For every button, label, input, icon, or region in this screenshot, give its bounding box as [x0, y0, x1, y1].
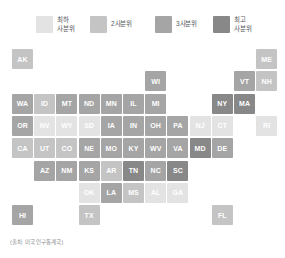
- source-note: (출처: 미국 인구통계국): [10, 238, 63, 246]
- state-tile-va[interactable]: VA: [167, 138, 188, 158]
- state-tile-il[interactable]: IL: [123, 94, 144, 114]
- state-tile-wy[interactable]: WY: [56, 116, 77, 136]
- state-tile-id[interactable]: ID: [34, 94, 55, 114]
- legend-item-1: 최하 사분위: [36, 16, 75, 33]
- state-tile-wa[interactable]: WA: [12, 94, 33, 114]
- state-tile-mt[interactable]: MT: [56, 94, 77, 114]
- legend-item-4: 최고 사분위: [213, 16, 252, 33]
- state-tile-ma[interactable]: MA: [234, 94, 255, 114]
- legend-swatch-q1: [36, 16, 53, 33]
- state-tile-ne[interactable]: NE: [79, 138, 100, 158]
- state-tile-nc[interactable]: NC: [145, 161, 166, 181]
- legend-label-q3: 3사분위: [176, 20, 197, 28]
- legend-item-2: 2사분위: [90, 16, 132, 33]
- state-tile-mn[interactable]: MN: [101, 94, 122, 114]
- state-tile-ct[interactable]: CT: [212, 116, 233, 136]
- state-tile-ok[interactable]: OK: [79, 183, 100, 203]
- state-tile-de[interactable]: DE: [212, 138, 233, 158]
- state-tile-md[interactable]: MD: [190, 138, 211, 158]
- state-tile-fl[interactable]: FL: [212, 205, 233, 225]
- legend-label-q1: 최하 사분위: [57, 16, 75, 32]
- state-tile-ar[interactable]: AR: [101, 161, 122, 181]
- state-tile-ks[interactable]: KS: [79, 161, 100, 181]
- quartile-legend: 최하 사분위2사분위3사분위최고 사분위: [0, 8, 285, 42]
- state-tile-la[interactable]: LA: [101, 183, 122, 203]
- state-tile-tn[interactable]: TN: [123, 161, 144, 181]
- state-tile-tx[interactable]: TX: [79, 205, 100, 225]
- legend-swatch-q3: [155, 16, 172, 33]
- state-tile-oh[interactable]: OH: [145, 116, 166, 136]
- legend-swatch-q4: [213, 16, 230, 33]
- state-tile-mo[interactable]: MO: [101, 138, 122, 158]
- state-tile-ky[interactable]: KY: [123, 138, 144, 158]
- state-tile-me[interactable]: ME: [256, 49, 277, 69]
- legend-item-3: 3사분위: [155, 16, 197, 33]
- state-tile-ca[interactable]: CA: [12, 138, 33, 158]
- state-tile-ia[interactable]: IA: [101, 116, 122, 136]
- state-tile-wi[interactable]: WI: [145, 71, 166, 91]
- state-tile-ri[interactable]: RI: [256, 116, 277, 136]
- state-tile-sc[interactable]: SC: [167, 161, 188, 181]
- state-tile-nd[interactable]: ND: [79, 94, 100, 114]
- state-tile-ms[interactable]: MS: [123, 183, 144, 203]
- legend-label-q4: 최고 사분위: [234, 16, 252, 32]
- state-tile-wv[interactable]: WV: [145, 138, 166, 158]
- state-tile-ga[interactable]: GA: [167, 183, 188, 203]
- state-tile-hi[interactable]: HI: [12, 205, 33, 225]
- state-tile-ny[interactable]: NY: [212, 94, 233, 114]
- state-tile-ut[interactable]: UT: [34, 138, 55, 158]
- state-tile-or[interactable]: OR: [12, 116, 33, 136]
- state-tile-nm[interactable]: NM: [56, 161, 77, 181]
- state-tile-az[interactable]: AZ: [34, 161, 55, 181]
- state-tile-nj[interactable]: NJ: [190, 116, 211, 136]
- state-tile-in[interactable]: IN: [123, 116, 144, 136]
- state-tile-co[interactable]: CO: [56, 138, 77, 158]
- state-tile-nv[interactable]: NV: [34, 116, 55, 136]
- state-tile-nh[interactable]: NH: [256, 71, 277, 91]
- state-tile-mi[interactable]: MI: [145, 94, 166, 114]
- state-tile-pa[interactable]: PA: [167, 116, 188, 136]
- legend-label-q2: 2사분위: [111, 20, 132, 28]
- legend-swatch-q2: [90, 16, 107, 33]
- us-tile-cartogram: AKMEWIVTNHWAIDMTNDMNILMINYMAORNVWYSDIAIN…: [0, 44, 285, 229]
- state-tile-al[interactable]: AL: [145, 183, 166, 203]
- state-tile-ak[interactable]: AK: [12, 49, 33, 69]
- state-tile-sd[interactable]: SD: [79, 116, 100, 136]
- state-tile-vt[interactable]: VT: [234, 71, 255, 91]
